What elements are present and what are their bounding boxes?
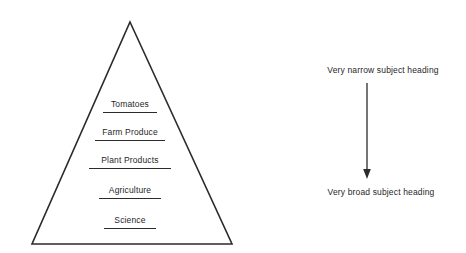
pyramid-tier-label: Plant Products	[101, 155, 158, 165]
annotation-bottom-label: Very broad subject heading	[328, 187, 435, 198]
pyramid-tier-plant-products: Plant Products	[89, 155, 171, 169]
diagram-canvas: Tomatoes Farm Produce Plant Products Agr…	[0, 0, 466, 253]
downward-arrow-head-icon	[363, 169, 371, 179]
pyramid-tier-label: Farm Produce	[102, 127, 158, 137]
pyramid-tier-agriculture: Agriculture	[99, 185, 161, 199]
diagram-vector-layer	[0, 0, 466, 253]
pyramid-tier-label: Science	[114, 215, 145, 225]
pyramid-tier-farm-produce: Farm Produce	[95, 127, 165, 141]
pyramid-tier-label: Tomatoes	[111, 99, 149, 109]
pyramid-tier-science: Science	[104, 215, 156, 229]
annotation-top-label: Very narrow subject heading	[327, 65, 438, 76]
pyramid-tier-tomatoes: Tomatoes	[103, 99, 157, 113]
pyramid-tier-label: Agriculture	[109, 185, 151, 195]
